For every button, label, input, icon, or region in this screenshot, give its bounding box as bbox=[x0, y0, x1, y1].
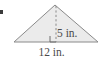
height-label: 5 in. bbox=[57, 28, 77, 40]
base-label: 12 in. bbox=[0, 47, 103, 59]
figure-canvas: 5 in. 12 in. bbox=[0, 0, 103, 62]
